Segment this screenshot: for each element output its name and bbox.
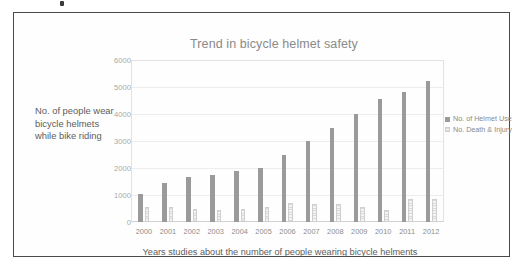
legend-label-2: No. Death & Injury [453,125,512,136]
x-tick-2011: 2011 [395,227,419,236]
bar-2004-series1[interactable] [234,171,239,222]
bar-2008-series2[interactable] [336,204,341,222]
scan-speck [60,1,64,6]
bar-2002-series1[interactable] [186,177,191,222]
bar-group-2009[interactable] [347,60,371,222]
x-tick-2003: 2003 [204,227,228,236]
bar-series-container [132,60,443,222]
x-tick-2001: 2001 [156,227,180,236]
bar-2007-series2[interactable] [312,204,317,222]
bar-group-2011[interactable] [395,60,419,222]
y-tick-1000: 1000 [89,191,131,200]
bar-2009-series2[interactable] [360,207,365,222]
bar-group-2010[interactable] [371,60,395,222]
bar-group-2001[interactable] [156,60,180,222]
x-tick-2007: 2007 [299,227,323,236]
x-tick-2009: 2009 [347,227,371,236]
bar-2003-series2[interactable] [217,210,222,222]
bar-2000-series1[interactable] [138,194,143,222]
chart-frame: Trend in bicycle helmet safety No. of pe… [13,12,510,257]
y-axis-tick-labels: 0100020003000400050006000 [89,60,131,222]
x-axis-tick-labels: 2000200120022003200420052006200720082009… [132,227,443,236]
bar-2007-series1[interactable] [306,141,311,222]
x-tick-2012: 2012 [419,227,443,236]
x-tick-2006: 2006 [276,227,300,236]
bar-2009-series1[interactable] [354,114,359,222]
y-tick-4000: 4000 [89,110,131,119]
bar-group-2005[interactable] [252,60,276,222]
bar-2008-series1[interactable] [330,128,335,223]
x-tick-2002: 2002 [180,227,204,236]
bar-group-2004[interactable] [228,60,252,222]
x-tick-2008: 2008 [323,227,347,236]
bar-2001-series2[interactable] [169,207,174,222]
legend-item-1[interactable]: No. of Helmet Use [445,114,512,125]
bar-2002-series2[interactable] [193,209,198,222]
bar-group-2006[interactable] [276,60,300,222]
y-tick-5000: 5000 [89,83,131,92]
x-axis-title: Years studies about the number of people… [126,247,434,257]
bar-2012-series1[interactable] [426,81,431,222]
bar-2012-series2[interactable] [432,199,437,222]
bar-2003-series1[interactable] [210,175,215,222]
y-tick-0: 0 [89,218,131,227]
bar-2010-series1[interactable] [378,99,383,222]
bar-2005-series2[interactable] [265,207,270,222]
bar-2001-series1[interactable] [162,183,167,222]
x-tick-2000: 2000 [132,227,156,236]
bar-2010-series2[interactable] [384,210,389,222]
bar-group-2002[interactable] [180,60,204,222]
bar-group-2000[interactable] [132,60,156,222]
legend-swatch-icon-1 [445,117,450,122]
bar-2006-series1[interactable] [282,155,287,223]
legend-label-1: No. of Helmet Use [453,114,512,125]
bar-2011-series1[interactable] [402,92,407,222]
y-tick-6000: 6000 [89,56,131,65]
legend-item-2[interactable]: No. Death & Injury [445,125,512,136]
y-tick-3000: 3000 [89,137,131,146]
chart-legend: No. of Helmet UseNo. Death & Injury [445,114,512,135]
legend-swatch-icon-2 [445,127,450,132]
bar-group-2007[interactable] [299,60,323,222]
bar-group-2003[interactable] [204,60,228,222]
x-tick-2004: 2004 [228,227,252,236]
bar-2000-series2[interactable] [145,207,150,222]
bar-group-2012[interactable] [419,60,443,222]
chart-title: Trend in bicycle helmet safety [124,37,424,51]
bar-2005-series1[interactable] [258,168,263,222]
x-tick-2010: 2010 [371,227,395,236]
bar-2011-series2[interactable] [408,199,413,222]
y-tick-2000: 2000 [89,164,131,173]
x-tick-2005: 2005 [252,227,276,236]
bar-group-2008[interactable] [323,60,347,222]
bar-2004-series2[interactable] [241,209,246,222]
bar-2006-series2[interactable] [288,203,293,222]
